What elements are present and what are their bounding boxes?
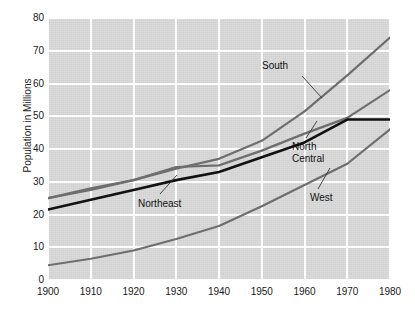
x-tick-label: 1920 [111,287,157,297]
chart-figure: 01020304050607080 1900191019201930194019… [0,0,415,322]
x-tick-label: 1970 [324,287,370,297]
series-line-northeast [48,90,390,198]
y-axis-title: Population in Millions [22,51,33,201]
x-axis-ticks: 190019101920193019401950196019701980 [0,287,415,301]
y-tick-label: 80 [4,13,44,23]
series-lines [48,18,390,280]
x-tick-label: 1940 [196,287,242,297]
x-tick-label: 1950 [239,287,285,297]
y-tick-label: 20 [4,210,44,220]
plot-area [48,18,390,280]
x-tick-label: 1960 [282,287,328,297]
x-tick-label: 1930 [153,287,199,297]
annotation-label-west: West [310,192,333,204]
x-tick-label: 1980 [367,287,413,297]
x-tick-label: 1900 [25,287,71,297]
x-tick-label: 1910 [68,287,114,297]
y-tick-label: 0 [4,275,44,285]
annotation-label-north-central: North Central [292,141,324,164]
annotation-label-northeast: Northeast [138,198,181,210]
series-line-south [48,38,390,198]
y-tick-label: 10 [4,242,44,252]
annotation-label-south: South [262,60,288,72]
